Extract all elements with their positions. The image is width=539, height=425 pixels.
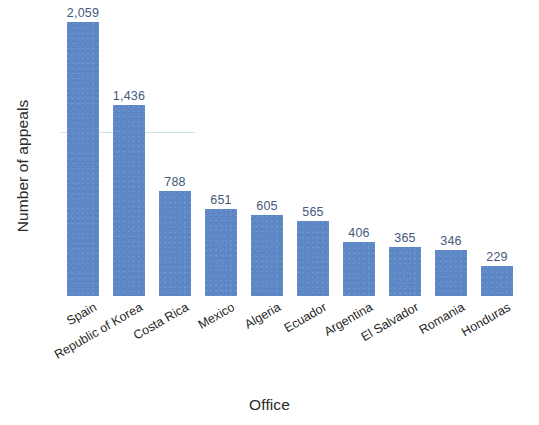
bar (481, 266, 513, 296)
bar-group: 365 (382, 4, 428, 296)
x-axis-tick-label: Romania (417, 300, 467, 337)
bar (297, 221, 329, 296)
bar-chart: Number of appeals 2,0591,436788651605565… (0, 0, 539, 425)
bar-value-label: 346 (420, 234, 482, 248)
bar-value-label: 788 (144, 175, 206, 189)
bar-value-label: 2,059 (52, 6, 114, 20)
bar-value-label: 229 (466, 250, 528, 264)
x-axis-tick-label: Spain (64, 300, 99, 328)
bar-group: 1,436 (106, 4, 152, 296)
bar-group: 229 (474, 4, 520, 296)
bar (67, 22, 99, 296)
x-axis-tick-label: Ecuador (282, 300, 329, 335)
plot-area: 2,0591,436788651605565406365346229 (60, 4, 539, 296)
x-axis-tick-label: Honduras (459, 300, 513, 339)
bar-value-label: 565 (282, 205, 344, 219)
x-axis-title: Office (0, 396, 539, 414)
x-axis-tick-labels: SpainRepublic of KoreaCosta RicaMexicoAl… (60, 296, 539, 392)
bar-group: 565 (290, 4, 336, 296)
bar (159, 191, 191, 296)
bar-group: 788 (152, 4, 198, 296)
bar-group: 406 (336, 4, 382, 296)
x-axis-tick-label: Mexico (196, 300, 237, 332)
x-axis-tick-label: Algeria (242, 300, 283, 332)
bar-group: 605 (244, 4, 290, 296)
bar (435, 250, 467, 296)
bar (251, 215, 283, 296)
bar-group: 651 (198, 4, 244, 296)
bar (113, 105, 145, 296)
bar-value-label: 1,436 (98, 89, 160, 103)
y-axis-title: Number of appeals (10, 16, 36, 316)
bar (343, 242, 375, 296)
bar-group: 2,059 (60, 4, 106, 296)
bar (205, 209, 237, 296)
bar (389, 247, 421, 296)
